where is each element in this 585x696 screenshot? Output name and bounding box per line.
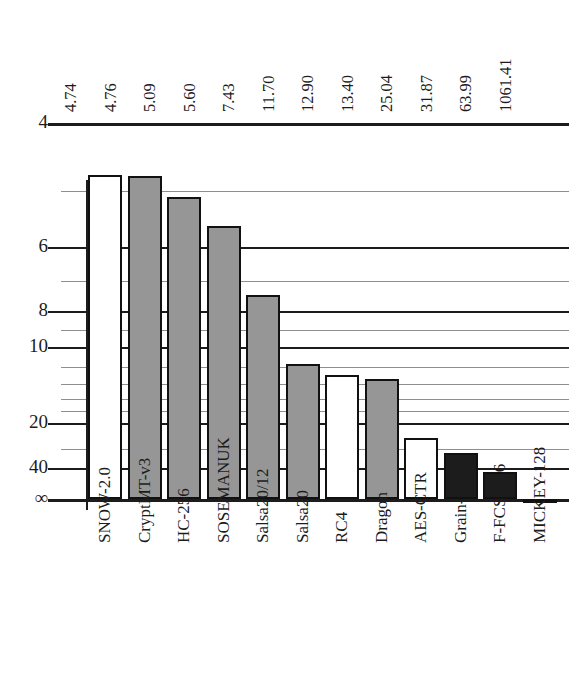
bar-chart-figure: 4.74 4.76 5.09 5.60 7.43 11.70 12.90 13.… [0, 0, 585, 696]
x-axis-label: SOSEMANUK [207, 509, 241, 543]
x-axis-label: CryptMT-v3 [128, 509, 162, 543]
x-axis-label: Grain-128 [444, 509, 478, 543]
bar [167, 197, 201, 499]
bar [286, 364, 320, 499]
bar [325, 375, 359, 499]
bar [88, 175, 122, 499]
bar [128, 176, 162, 499]
x-axis-label: Salsa20/12 [246, 509, 280, 543]
x-axis-label: HC-256 [167, 509, 201, 543]
bar-group [0, 100, 585, 510]
x-axis-label: F-FCSR-16 [483, 509, 517, 543]
x-axis-label: Salsa20 [286, 509, 320, 543]
plot-area: 468102040∞ [0, 100, 585, 510]
bar [365, 379, 399, 499]
x-axis-label: AES-CTR [404, 509, 438, 543]
x-axis-label: MICKEY-128 [523, 509, 557, 543]
caption [0, 688, 585, 696]
x-axis-label: RC4 [325, 509, 359, 543]
x-axis-label: Dragon [365, 509, 399, 543]
x-axis-label: SNOW-2.0 [88, 509, 122, 543]
x-axis-label-group: SNOW-2.0 CryptMT-v3 HC-256 SOSEMANUK Sal… [0, 505, 585, 685]
